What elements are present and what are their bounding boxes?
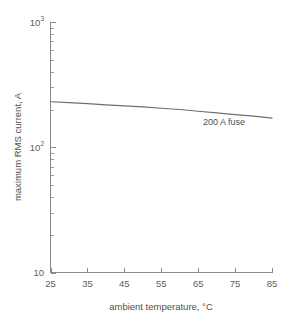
y-tick-label: 10: [33, 267, 44, 278]
x-tick-label: 45: [119, 278, 130, 289]
x-tick-label: 25: [45, 278, 56, 289]
x-tick-label: 55: [156, 278, 167, 289]
x-axis-major-ticks: [52, 268, 273, 273]
y-tick-label: 102: [30, 140, 45, 153]
x-axis-tick-labels: 25354555657585: [45, 278, 277, 289]
data-series-group: [51, 102, 273, 118]
chart-figure: 10102103 25354555657585 200 A fuse ambie…: [0, 0, 291, 320]
x-tick-label: 35: [82, 278, 93, 289]
axes: [51, 22, 273, 273]
curve-annotation-label: 200 A fuse: [203, 117, 245, 127]
series-line-200-a-fuse: [51, 102, 273, 118]
x-tick-label: 65: [193, 278, 204, 289]
axis-frame: [51, 22, 273, 273]
x-tick-label: 75: [230, 278, 241, 289]
chart-plot-area: 10102103 25354555657585 200 A fuse ambie…: [0, 0, 291, 320]
y-axis-title: maximum RMS current, A: [12, 92, 23, 201]
x-tick-label: 85: [267, 278, 278, 289]
x-axis-title: ambient temperature, °C: [109, 301, 213, 312]
y-axis-tick-labels: 10102103: [30, 15, 45, 278]
chart-annotations: 200 A fuse: [203, 117, 245, 127]
y-tick-label: 103: [30, 15, 45, 28]
